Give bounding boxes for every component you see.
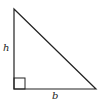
right-triangle: [14, 9, 96, 89]
height-label: h: [3, 42, 9, 53]
triangle-diagram: h b: [0, 0, 99, 100]
right-angle-marker: [14, 78, 25, 89]
base-label: b: [52, 90, 58, 100]
